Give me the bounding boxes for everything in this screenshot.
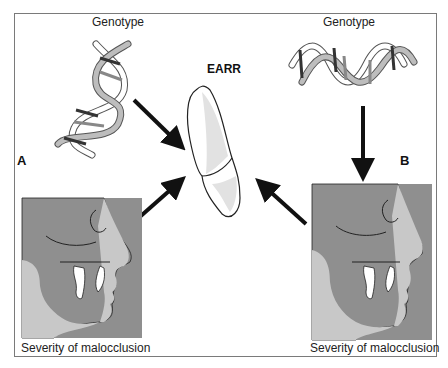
dna-helix-icon-b [292,46,414,84]
genotype-label-a: Genotype [92,15,144,29]
malocclusion-label-b: Severity of malocclusion [310,341,439,355]
tooth-icon [188,86,240,216]
genotype-label-b: Genotype [323,15,375,29]
dna-helix-icon-a [58,44,128,155]
face-profile-a [22,198,142,338]
panel-letter-a: A [17,153,26,168]
face-profile-b [312,184,432,340]
arrow-genotype-a [134,100,177,142]
earr-label: EARR [207,62,241,76]
arrow-malocclusion-b [264,186,306,224]
figure-artwork [0,0,448,368]
panel-letter-b: B [400,153,409,168]
malocclusion-label-a: Severity of malocclusion [21,341,150,355]
